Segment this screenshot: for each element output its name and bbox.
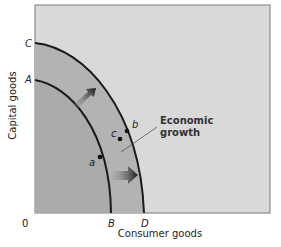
point-b-dot	[125, 129, 130, 134]
economic-growth-annotation: Economic growth	[160, 115, 213, 139]
label-point-a: a	[89, 157, 95, 168]
label-point-b: b	[132, 119, 138, 130]
annotation-line-1: Economic	[160, 115, 213, 127]
label-origin: 0	[22, 218, 28, 229]
label-C: C	[25, 38, 32, 49]
annotation-line-2: growth	[160, 127, 213, 139]
label-A: A	[25, 74, 32, 85]
point-a-dot	[98, 155, 103, 160]
x-axis-label: Consumer goods	[100, 228, 220, 239]
point-c-dot	[118, 137, 123, 142]
ppf-diagram	[0, 0, 281, 247]
y-axis-label: Capital goods	[7, 66, 18, 146]
label-point-c: c	[111, 128, 117, 139]
